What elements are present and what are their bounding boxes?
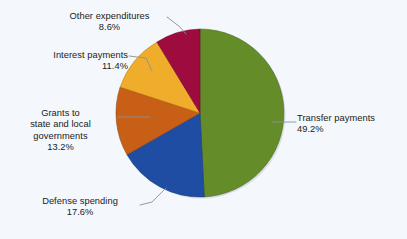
slice-label-grants-line3: governments bbox=[4, 131, 117, 142]
pie-chart-figure: Other expenditures 8.6% Interest payment… bbox=[0, 0, 407, 239]
slice-label-other-expenditures: Other expenditures 8.6% bbox=[53, 11, 166, 34]
slice-label-interest-payments-percent: 11.4% bbox=[10, 61, 128, 72]
leader-line-defense-spending bbox=[140, 188, 166, 205]
slice-label-other-expenditures-percent: 8.6% bbox=[53, 22, 166, 33]
slice-label-defense-spending-text: Defense spending bbox=[42, 196, 118, 206]
slice-label-interest-payments: Interest payments 11.4% bbox=[10, 50, 128, 73]
slice-label-grants-line2: state and local bbox=[4, 119, 117, 130]
slice-label-grants: Grants to state and local governments 13… bbox=[4, 108, 117, 154]
slice-label-grants-line1: Grants to bbox=[41, 108, 80, 118]
slice-label-transfer-payments: Transfer payments 49.2% bbox=[297, 113, 407, 136]
pie-slices bbox=[116, 29, 284, 197]
slice-label-transfer-payments-text: Transfer payments bbox=[297, 113, 375, 123]
slice-label-defense-spending-percent: 17.6% bbox=[22, 207, 138, 218]
slice-label-defense-spending: Defense spending 17.6% bbox=[22, 196, 138, 219]
slice-label-grants-percent: 13.2% bbox=[4, 142, 117, 153]
slice-label-transfer-payments-percent: 49.2% bbox=[297, 124, 407, 135]
slice-label-interest-payments-text: Interest payments bbox=[53, 50, 128, 60]
slice-label-other-expenditures-text: Other expenditures bbox=[70, 11, 150, 21]
pie-slice-transfer-payments[interactable] bbox=[200, 29, 284, 197]
